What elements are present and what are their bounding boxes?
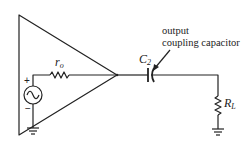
source-plus-sign: + — [24, 76, 30, 86]
output-resistance-symbol — [50, 72, 69, 78]
source-minus-sign: − — [25, 104, 31, 114]
ground-icon-right — [212, 129, 224, 135]
annotation-arrow — [155, 50, 170, 68]
label-subscript: 2 — [147, 58, 151, 67]
capacitor-to-load-wire — [151, 75, 218, 96]
load-resistor-label: RL — [224, 97, 236, 111]
annotation-line-2: coupling capacitor — [162, 38, 240, 49]
load-resistor-symbol — [215, 96, 221, 115]
circuit-diagram — [0, 0, 250, 148]
output-resistance-label: ro — [55, 56, 64, 70]
source-wire — [33, 75, 50, 86]
output-node — [116, 74, 119, 77]
annotation-line-1: output — [162, 26, 189, 37]
label-main: C — [139, 52, 147, 66]
label-subscript: o — [60, 61, 64, 70]
capacitor-label: C2 — [139, 53, 151, 67]
sine-icon — [27, 91, 39, 99]
label-subscript: L — [231, 102, 235, 111]
